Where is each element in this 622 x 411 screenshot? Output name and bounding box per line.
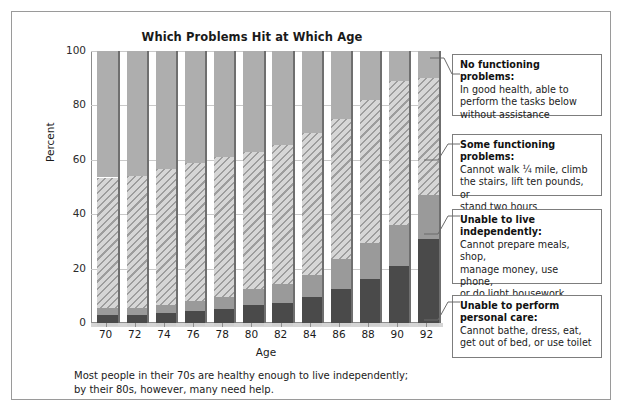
bar-base-shadow [389, 323, 409, 326]
bar-stack[interactable] [272, 51, 292, 323]
bar-segment [272, 303, 292, 323]
bar-segment [185, 163, 205, 302]
x-tick-label: 88 [355, 328, 381, 340]
x-tick-label: 78 [209, 328, 235, 340]
x-tick-mark [135, 323, 136, 327]
caption-line-1: Most people in their 70s are healthy eno… [74, 369, 408, 383]
bar-edge-shadow [409, 51, 411, 323]
bar-edge-shadow [118, 51, 120, 323]
bar-segment [156, 51, 176, 169]
bar-stack[interactable] [243, 51, 263, 323]
figure-panel: Which Problems Hit at Which Age Percent … [11, 11, 611, 400]
bar-base-shadow [185, 323, 205, 326]
y-tick-label: 20 [48, 262, 86, 274]
y-tick-label: 40 [48, 207, 86, 219]
bar-segment [243, 51, 263, 152]
bar-stack[interactable] [214, 51, 234, 323]
x-tick-mark [193, 323, 194, 327]
x-tick-mark [281, 323, 282, 327]
x-tick-label: 82 [268, 328, 294, 340]
bar-segment [302, 275, 322, 297]
leader-line-unable-to-perform-personal-care [424, 298, 460, 338]
bar-edge-shadow [293, 51, 295, 323]
bar-base-shadow [243, 323, 263, 326]
bar-base-shadow [127, 323, 147, 326]
x-tick-mark [368, 323, 369, 327]
callout-title: Some functioning problems: [460, 139, 594, 164]
leader-line-no-functioning-problems [430, 56, 460, 96]
bar-edge-shadow [351, 51, 353, 323]
bar-base-shadow [156, 323, 176, 326]
bar-segment [389, 266, 409, 323]
bar-edge-shadow [176, 51, 178, 323]
bar-segment [360, 100, 380, 243]
bar-segment [97, 51, 117, 177]
callout-line: the stairs, lift ten pounds, or [460, 176, 594, 201]
callout-unable-to-perform-personal-care: Unable to perform personal care: Cannot … [452, 295, 602, 358]
bar-segment [214, 157, 234, 297]
bar-segment [389, 81, 409, 225]
bar-edge-shadow [234, 51, 236, 323]
bar-base-shadow [331, 323, 351, 326]
bar-segment [360, 243, 380, 280]
bar-segment [360, 51, 380, 100]
bar-segment [97, 178, 117, 309]
bar-segment [331, 51, 351, 119]
bar-stack[interactable] [185, 51, 205, 323]
bar-segment [214, 309, 234, 323]
bar-segment [127, 315, 147, 323]
x-tick-mark [310, 323, 311, 327]
x-axis-label: Age [91, 346, 441, 358]
chart-title: Which Problems Hit at Which Age [102, 30, 402, 44]
x-tick-label: 84 [297, 328, 323, 340]
callout-line: Cannot bathe, dress, eat, [460, 325, 594, 337]
bar-segment [302, 133, 322, 276]
bar-segment [156, 313, 176, 323]
bar-base-shadow [272, 323, 292, 326]
x-tick-mark [251, 323, 252, 327]
bar-stack[interactable] [331, 51, 351, 323]
plot-area [91, 51, 441, 323]
y-tick-label: 60 [48, 153, 86, 165]
x-tick-mark [339, 323, 340, 327]
bar-stack[interactable] [127, 51, 147, 323]
y-tick-label: 100 [48, 44, 86, 56]
callout-line: manage money, use phone, [460, 264, 594, 289]
bar-stack[interactable] [302, 51, 322, 323]
bar-stack[interactable] [389, 51, 409, 323]
y-tick-label: 80 [48, 98, 86, 110]
leader-line-some-functioning-problems [424, 140, 460, 180]
callout-unable-to-live-independently: Unable to live independently: Cannot pre… [452, 209, 602, 284]
bar-edge-shadow [322, 51, 324, 323]
callout-line: perform the tasks below [460, 96, 594, 108]
bar-segment [185, 51, 205, 163]
bar-segment [272, 284, 292, 303]
bar-segment [272, 51, 292, 145]
x-tick-mark [164, 323, 165, 327]
callout-line: without assistance [460, 109, 594, 121]
bar-stack[interactable] [360, 51, 380, 323]
figure-caption: Most people in their 70s are healthy eno… [74, 369, 408, 397]
x-tick-label: 72 [122, 328, 148, 340]
bar-segment [302, 51, 322, 133]
callout-title-2: personal care: [460, 312, 594, 324]
bar-edge-shadow [264, 51, 266, 323]
callout-line: Cannot prepare meals, shop, [460, 239, 594, 264]
bar-stack[interactable] [156, 51, 176, 323]
bar-segment [389, 51, 409, 81]
bar-segment [97, 308, 117, 315]
leader-line-unable-to-live-independently [424, 212, 460, 252]
bar-segment [214, 51, 234, 157]
bar-segment [272, 145, 292, 284]
x-tick-mark [222, 323, 223, 327]
x-tick-label: 76 [180, 328, 206, 340]
x-tick-label: 80 [238, 328, 264, 340]
bar-stack[interactable] [97, 51, 117, 323]
bar-base-shadow [97, 323, 117, 326]
bar-segment [97, 315, 117, 323]
bar-segment [243, 305, 263, 323]
callout-line: get out of bed, or use toilet [460, 337, 594, 349]
bar-base-shadow [360, 323, 380, 326]
caption-line-2: by their 80s, however, many need help. [74, 383, 408, 397]
x-tick-label: 86 [326, 328, 352, 340]
